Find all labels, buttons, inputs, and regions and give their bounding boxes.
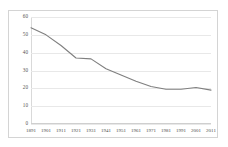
series-polyline <box>31 28 211 90</box>
x-axis-tick-label: 1971 <box>146 128 156 133</box>
y-axis-tick-label: 10 <box>23 104 28 109</box>
y-axis-tick-label: 0 <box>25 121 28 126</box>
x-axis-tick-label: 1901 <box>41 128 51 133</box>
x-axis-tick-label: 2011 <box>206 128 216 133</box>
y-axis-tick-label: 20 <box>23 86 28 91</box>
x-axis-tick-label: 1981 <box>161 128 171 133</box>
y-axis-tick-label: 60 <box>23 14 28 19</box>
line-series <box>31 17 211 124</box>
plot-area: 0102030405060 18911901191119211931194119… <box>31 17 211 124</box>
x-axis-tick-label: 1941 <box>101 128 111 133</box>
x-axis-tick-label: 1991 <box>176 128 186 133</box>
gridline <box>31 124 211 125</box>
x-axis-tick-label: 1891 <box>26 128 36 133</box>
y-axis-tick-label: 50 <box>23 32 28 37</box>
x-axis-tick-label: 1951 <box>116 128 126 133</box>
y-axis-tick-label: 40 <box>23 50 28 55</box>
x-axis-tick-label: 1931 <box>86 128 96 133</box>
x-axis-tick-label: 1911 <box>56 128 66 133</box>
y-axis-tick-label: 30 <box>23 68 28 73</box>
x-axis-tick-label: 2001 <box>191 128 201 133</box>
chart-frame: 0102030405060 18911901191119211931194119… <box>8 10 218 138</box>
x-axis-tick-label: 1921 <box>71 128 81 133</box>
x-axis-tick-label: 1961 <box>131 128 141 133</box>
